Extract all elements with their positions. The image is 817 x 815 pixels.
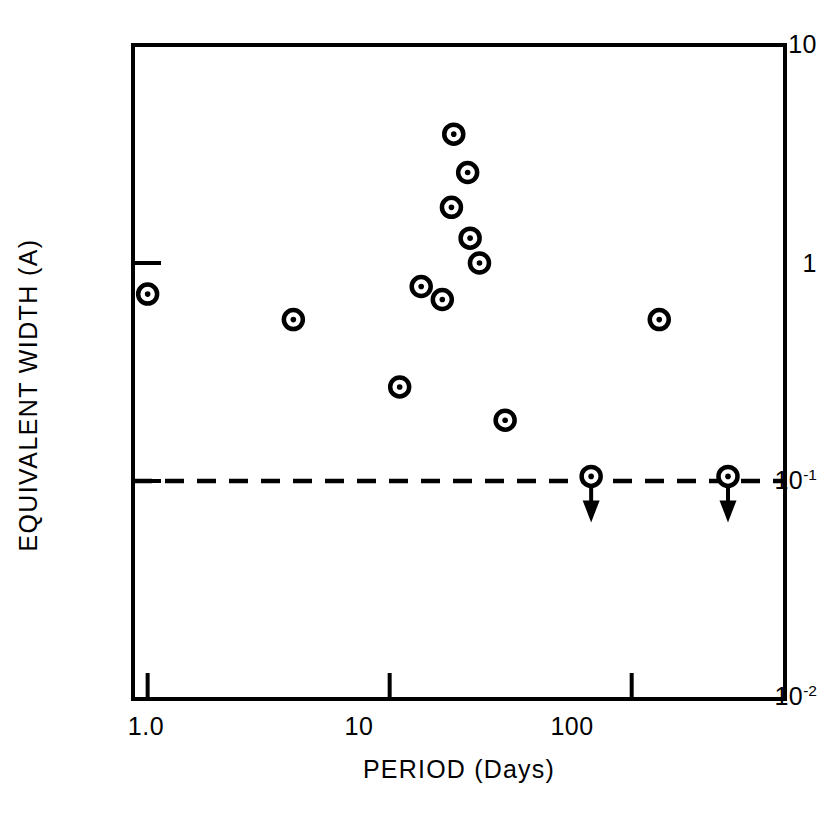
data-points: [138, 125, 737, 523]
data-point: [412, 277, 431, 296]
data-point: [390, 377, 409, 396]
scatter-plot-figure: EQUIVALENT WIDTH (A) PERIOD (Days) 10 1 …: [0, 0, 817, 815]
data-point: [433, 290, 452, 309]
data-point: [138, 285, 157, 304]
data-point: [496, 411, 515, 430]
data-point: [461, 229, 480, 248]
plot-canvas: [0, 0, 817, 815]
data-point-upper-limit: [582, 467, 601, 486]
data-point: [284, 310, 303, 329]
upper-limit-arrow-icon: [719, 484, 736, 522]
upper-limit-arrow-icon: [583, 484, 600, 522]
data-point: [470, 254, 489, 273]
data-point: [444, 125, 463, 144]
data-point: [458, 163, 477, 182]
data-point: [442, 198, 461, 217]
data-point-upper-limit: [718, 467, 737, 486]
data-point: [650, 310, 669, 329]
